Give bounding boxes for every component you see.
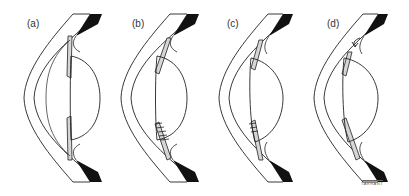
panel-d: (d)	[300, 0, 402, 196]
panel-b: (b)	[107, 0, 209, 196]
panel-a: (a)	[10, 0, 112, 196]
eye-diagram-d	[300, 0, 402, 196]
eye-diagram-b	[107, 0, 209, 196]
panel-c: (c)	[205, 0, 307, 196]
eye-diagram-a	[10, 0, 112, 196]
eye-diagram-c	[205, 0, 307, 196]
artist-signature: TARRANT	[361, 180, 383, 186]
